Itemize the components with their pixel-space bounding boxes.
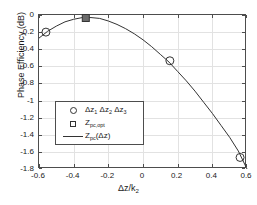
- x-tick-label: 0.2: [171, 171, 182, 180]
- circle-marker-icon: [61, 107, 85, 114]
- y-tick-label: -0.6: [0, 61, 34, 70]
- x-tick-label: -0.4: [66, 171, 80, 180]
- square-marker-icon: [61, 121, 85, 127]
- line-sample-icon: [61, 136, 85, 137]
- y-tick-label: -1.2: [0, 112, 34, 121]
- phase-efficiency-chart: Phase Efficiency (dB) Δz/k2 -0.6-0.4-0.2…: [0, 0, 257, 205]
- x-axis-label-main: Δz/k: [118, 183, 136, 193]
- x-tick-label: 0: [140, 171, 144, 180]
- y-tick-label: -1: [0, 95, 34, 104]
- legend-item-z-pc-curve: Zpc(Δz): [56, 130, 143, 143]
- phase-efficiency-curve: [39, 18, 247, 169]
- x-axis-label-subscript: 2: [136, 187, 139, 194]
- y-tick-label: -1.8: [0, 164, 34, 173]
- legend-item-delta-z: Δz1 Δz2 Δz3: [56, 104, 143, 117]
- legend-label-delta-z: Δz1 Δz2 Δz3: [85, 105, 127, 117]
- legend: Δz1 Δz2 Δz3 Zpc,opt Zpc(Δz): [55, 101, 144, 145]
- y-tick-label: -1.4: [0, 129, 34, 138]
- y-tick-label: -0.2: [0, 27, 34, 36]
- x-tick-label: -0.2: [100, 171, 114, 180]
- y-tick-label: 0: [0, 10, 34, 19]
- data-curve-layer: [39, 15, 247, 169]
- y-tick-label: -0.4: [0, 44, 34, 53]
- legend-label-z-pc-curve: Zpc(Δz): [85, 131, 110, 143]
- data-point-square: [82, 14, 89, 21]
- x-tick-label: 0.4: [206, 171, 217, 180]
- y-tick-label: -1.6: [0, 146, 34, 155]
- x-axis-label: Δz/k2: [0, 183, 257, 196]
- legend-label-z-pc-opt: Zpc,opt: [85, 118, 105, 130]
- x-tick-label: 0.6: [240, 171, 251, 180]
- optimal-marker: [82, 14, 89, 21]
- legend-item-z-pc-opt: Zpc,opt: [56, 117, 143, 130]
- y-tick-label: -0.8: [0, 78, 34, 87]
